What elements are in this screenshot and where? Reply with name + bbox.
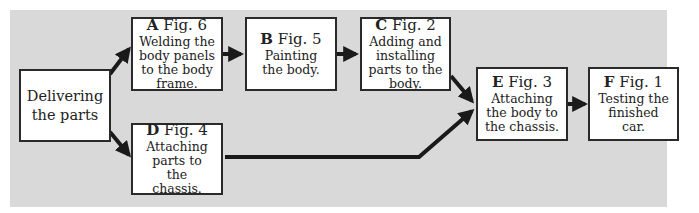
step-box-e: E Fig. 3 Attaching the body to the chass… — [476, 67, 568, 141]
step-c-fig: Fig. 2 — [392, 16, 436, 34]
arrow-c-to-e — [451, 76, 472, 101]
start-box: Delivering the parts — [19, 69, 111, 142]
step-c-id: C — [375, 16, 387, 34]
step-f-text: Testing the finished car. — [590, 92, 677, 134]
arrow-start-to-d — [110, 132, 129, 155]
step-f-id: F — [604, 73, 615, 91]
step-c-text: Adding and installing parts to the body. — [362, 35, 449, 91]
step-b-fig: Fig. 5 — [278, 30, 322, 48]
step-a-text: Welding the body panels to the body fram… — [133, 35, 221, 91]
step-box-f: F Fig. 1 Testing the finished car. — [588, 67, 679, 141]
step-d-fig: Fig. 4 — [164, 121, 208, 139]
step-box-b: B Fig. 5 Painting the body. — [245, 17, 337, 91]
step-box-a: A Fig. 6 Welding the body panels to the … — [131, 17, 223, 91]
arrow-d-to-e — [225, 111, 472, 157]
step-d-text: Attaching parts to the chassis. — [133, 140, 221, 196]
step-e-fig: Fig. 3 — [508, 73, 552, 91]
step-b-id: B — [260, 30, 273, 48]
step-box-c: C Fig. 2 Adding and installing parts to … — [360, 17, 451, 91]
step-a-id: A — [147, 16, 159, 34]
step-b-header: B Fig. 5 — [260, 31, 321, 48]
step-b-text: Painting the body. — [247, 49, 335, 77]
step-e-header: E Fig. 3 — [492, 74, 552, 91]
step-a-header: A Fig. 6 — [147, 17, 207, 34]
step-d-header: D Fig. 4 — [146, 122, 208, 139]
step-e-id: E — [492, 73, 503, 91]
step-f-header: F Fig. 1 — [604, 74, 663, 91]
step-box-d: D Fig. 4 Attaching parts to the chassis. — [131, 123, 223, 195]
step-c-header: C Fig. 2 — [375, 17, 436, 34]
start-text: Delivering the parts — [21, 87, 109, 123]
step-a-fig: Fig. 6 — [163, 16, 207, 34]
step-f-fig: Fig. 1 — [619, 73, 663, 91]
arrow-start-to-a — [110, 49, 129, 74]
step-e-text: Attaching the body to the chassis. — [478, 92, 566, 134]
step-d-id: D — [146, 121, 159, 139]
